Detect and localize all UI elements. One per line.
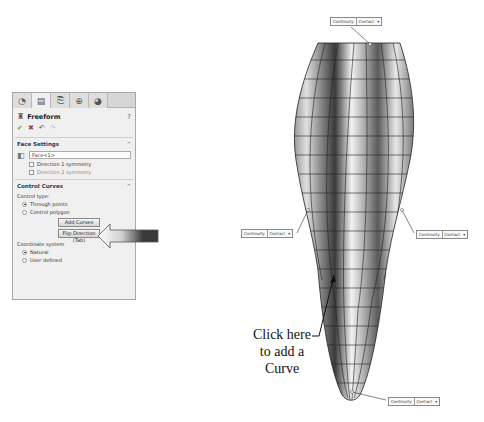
annotation-line-2: to add a: [247, 343, 317, 360]
radio-button[interactable]: [22, 250, 27, 255]
feature-manager-icon: ◔: [18, 96, 26, 106]
section-title: Control Curves: [17, 183, 63, 189]
tab-display-manager[interactable]: ◕: [89, 93, 108, 108]
tab-dimxpert-manager[interactable]: ⊕: [70, 93, 89, 108]
property-manager-icon: ▤: [37, 96, 46, 106]
checkbox-label: Direction 2 symmetry: [37, 169, 91, 175]
ok-check-icon[interactable]: ✔: [17, 124, 23, 132]
radio-through-points[interactable]: Through points: [13, 200, 135, 208]
radio-label: Control polygon: [30, 209, 70, 215]
annotation-line-3: Curve: [247, 360, 317, 377]
flip-direction-button[interactable]: Flip Direction (Tab): [58, 229, 100, 238]
tab-property-manager[interactable]: ▤: [32, 93, 51, 108]
section-title: Face Settings: [17, 141, 59, 147]
radio-natural[interactable]: Natural: [13, 248, 135, 256]
configuration-manager-icon: ⎘: [57, 95, 64, 106]
face-cube-icon: ◧: [17, 151, 26, 160]
tab-feature-manager[interactable]: ◔: [13, 93, 32, 108]
action-buttons: ✔ ✖ ↶ ↷: [13, 122, 135, 134]
face-selection-field[interactable]: Face<1>: [29, 151, 131, 159]
continuity-label: Continuity: [389, 398, 415, 405]
continuity-box-bottom[interactable]: Continuity Contact ▾: [388, 397, 440, 406]
checkbox-box[interactable]: [29, 170, 34, 175]
continuity-box-left[interactable]: Continuity Contact ▾: [241, 229, 293, 238]
radio-label: User defined: [30, 257, 62, 263]
continuity-box-top[interactable]: Continuity Contact ▾: [330, 17, 382, 26]
direction2-symmetry-checkbox[interactable]: Direction 2 symmetry: [13, 168, 135, 176]
tab-configuration-manager[interactable]: ⎘: [51, 93, 70, 108]
radio-button[interactable]: [22, 202, 27, 207]
continuity-dropdown[interactable]: Contact ▾: [443, 231, 468, 238]
direction1-symmetry-checkbox[interactable]: Direction 1 symmetry: [13, 160, 135, 168]
control-type-label: Control type:: [13, 192, 135, 200]
collapse-caret-icon[interactable]: ^: [126, 183, 131, 189]
radio-control-polygon[interactable]: Control polygon: [13, 208, 135, 216]
radio-button[interactable]: [22, 258, 27, 263]
panel-header: ♜ Freeform ?: [13, 108, 135, 122]
face-settings-header[interactable]: Face Settings ^: [13, 138, 135, 150]
undo-icon[interactable]: ↶: [39, 124, 45, 132]
face-selection-row: ◧ Face<1>: [13, 150, 135, 160]
dimxpert-icon: ⊕: [75, 96, 83, 106]
continuity-label: Continuity: [331, 18, 357, 25]
add-curves-button[interactable]: Add Curves: [58, 218, 100, 227]
manager-tabs: ◔ ▤ ⎘ ⊕ ◕: [13, 93, 135, 108]
chevron-down-icon: ▾: [463, 231, 465, 238]
radio-user-defined[interactable]: User defined: [13, 256, 135, 264]
panel-title: Freeform: [27, 113, 127, 121]
radio-button[interactable]: [22, 210, 27, 215]
chevron-down-icon: ▾: [377, 18, 379, 25]
continuity-label: Continuity: [242, 230, 268, 237]
continuity-dropdown[interactable]: Contact ▾: [415, 398, 440, 405]
annotation-callout: Click here to add a Curve: [247, 326, 317, 377]
checkbox-label: Direction 1 symmetry: [37, 161, 91, 167]
callout-arrow-icon: [97, 223, 159, 249]
continuity-box-right[interactable]: Continuity Contact ▾: [416, 230, 468, 239]
radio-label: Natural: [30, 249, 48, 255]
continuity-label: Continuity: [417, 231, 443, 238]
cancel-x-icon[interactable]: ✖: [28, 124, 34, 132]
chevron-down-icon: ▾: [288, 230, 290, 237]
freeform-property-manager: ◔ ▤ ⎘ ⊕ ◕ ♜ Freeform ? ✔ ✖ ↶ ↷ Face Sett…: [12, 92, 136, 300]
checkbox-box[interactable]: [29, 162, 34, 167]
freeform-feature-icon: ♜: [17, 112, 24, 121]
help-icon[interactable]: ?: [127, 113, 131, 121]
collapse-caret-icon[interactable]: ^: [126, 141, 131, 147]
radio-label: Through points: [30, 201, 68, 207]
control-curves-header[interactable]: Control Curves ^: [13, 180, 135, 192]
redo-icon: ↷: [50, 124, 56, 132]
annotation-line-1: Click here: [247, 326, 317, 343]
chevron-down-icon: ▾: [435, 398, 437, 405]
continuity-dropdown[interactable]: Contact ▾: [357, 18, 382, 25]
display-manager-icon: ◕: [94, 96, 102, 106]
continuity-dropdown[interactable]: Contact ▾: [268, 230, 293, 237]
